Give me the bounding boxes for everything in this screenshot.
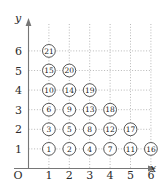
point-label: 5: [67, 125, 72, 134]
point-label: 9: [67, 105, 72, 114]
point-label: 15: [44, 66, 54, 75]
lattice-point: 20: [63, 64, 76, 77]
point-label: 6: [47, 105, 52, 114]
y-axis-arrowhead: [26, 18, 32, 26]
point-label: 12: [105, 125, 115, 134]
origin-label: O: [13, 169, 22, 182]
point-label: 2: [67, 145, 72, 154]
lattice-point: 5: [63, 123, 76, 136]
lattice-point: 2: [63, 143, 76, 156]
lattice-point: 9: [63, 103, 76, 116]
lattice-point: 10: [43, 84, 56, 97]
point-label: 19: [85, 86, 95, 95]
y-axis: [26, 18, 32, 169]
y-tick-6: 6: [15, 45, 22, 58]
x-tick-5: 5: [127, 169, 134, 182]
lattice-point: 4: [83, 143, 96, 156]
y-axis-label: y: [14, 12, 22, 25]
lattice-point: 11: [124, 143, 137, 156]
point-label: 14: [65, 86, 75, 95]
lattice-point: 6: [43, 103, 56, 116]
point-label: 16: [146, 145, 156, 154]
y-tick-labels: 123456: [15, 45, 22, 156]
y-tick-2: 2: [15, 123, 22, 136]
lattice-point: 8: [83, 123, 96, 136]
lattice-point: 14: [63, 84, 76, 97]
x-tick-4: 4: [107, 169, 114, 182]
lattice-point: 18: [104, 103, 117, 116]
lattice-point: 7: [104, 143, 117, 156]
x-tick-6: 6: [147, 169, 154, 182]
plot-canvas: y x O 123456 123456 12345678910111213141…: [0, 0, 163, 182]
point-label: 8: [87, 125, 92, 134]
y-tick-3: 3: [15, 104, 22, 117]
lattice-point: 16: [145, 143, 158, 156]
x-tick-labels: 123456: [45, 169, 154, 182]
point-label: 3: [47, 125, 52, 134]
point-label: 21: [44, 47, 54, 56]
point-label: 7: [108, 145, 113, 154]
point-label: 13: [85, 105, 95, 114]
y-tick-1: 1: [15, 143, 22, 156]
point-label: 18: [105, 105, 115, 114]
y-tick-4: 4: [15, 84, 22, 97]
lattice-point: 1: [43, 143, 56, 156]
lattice-enumeration-figure: y x O 123456 123456 12345678910111213141…: [0, 0, 163, 182]
x-axis: [14, 166, 156, 172]
point-label: 1: [47, 145, 52, 154]
lattice-point: 17: [124, 123, 137, 136]
lattice-point: 3: [43, 123, 56, 136]
point-label: 17: [126, 125, 136, 134]
x-tick-2: 2: [66, 169, 73, 182]
x-tick-1: 1: [45, 169, 52, 182]
lattice-point: 15: [43, 64, 56, 77]
lattice-point: 19: [83, 84, 96, 97]
lattice-point: 12: [104, 123, 117, 136]
point-label: 11: [126, 145, 136, 154]
point-label: 10: [44, 86, 54, 95]
y-tick-5: 5: [15, 65, 22, 78]
lattice-point: 13: [83, 103, 96, 116]
point-label: 4: [87, 145, 92, 154]
x-tick-3: 3: [86, 169, 93, 182]
lattice-points: 123456789101112131415161718192021: [43, 45, 158, 156]
point-label: 20: [65, 66, 75, 75]
lattice-point: 21: [43, 45, 56, 58]
